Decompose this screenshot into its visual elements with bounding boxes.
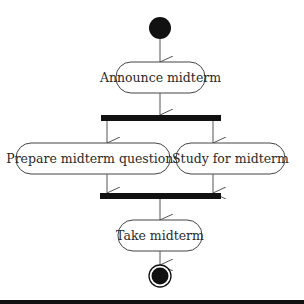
action-label: Take midterm	[116, 228, 204, 243]
action-announce-midterm: Announce midterm	[99, 62, 221, 93]
action-study-for-midterm: Study for midterm	[172, 143, 289, 174]
action-label: Announce midterm	[99, 70, 221, 85]
initial-node	[149, 17, 171, 39]
action-label: Study for midterm	[172, 151, 289, 166]
action-label: Prepare midterm questions	[6, 151, 180, 166]
activity-diagram: Announce midterm Prepare midterm questio…	[0, 0, 304, 304]
final-node	[149, 265, 171, 287]
join-bar	[100, 193, 221, 199]
bottom-border	[0, 300, 304, 304]
fork-bar	[101, 115, 221, 121]
action-prepare-midterm-questions: Prepare midterm questions	[6, 143, 180, 174]
action-take-midterm: Take midterm	[116, 220, 204, 251]
